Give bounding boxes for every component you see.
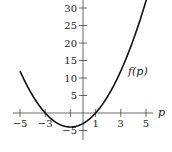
x-tick-label: 3 <box>118 118 124 129</box>
y-tick-label: 5 <box>71 90 77 101</box>
x-tick-label: 5 <box>143 118 149 129</box>
x-tick-label: 1 <box>92 118 98 129</box>
y-tick-label: 20 <box>64 38 77 49</box>
y-tick-label: 10 <box>64 73 77 84</box>
function-plot: −5−3135−551015202530 p f(p) <box>0 0 172 152</box>
curve-label: f(p) <box>127 65 148 78</box>
x-tick-label: −3 <box>38 118 53 129</box>
y-tick-label: 25 <box>64 20 77 31</box>
y-tick-label: 30 <box>64 3 77 14</box>
x-axis-label: p <box>158 106 165 119</box>
x-tick-label: −5 <box>13 118 28 129</box>
y-tick-label: 15 <box>64 55 77 66</box>
